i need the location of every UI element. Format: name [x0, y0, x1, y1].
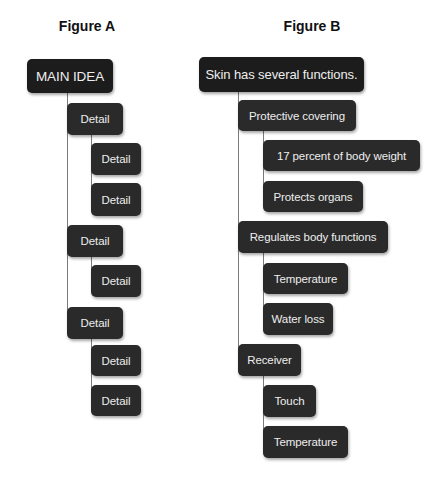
detail-node-protective-covering: Protective covering — [238, 100, 356, 131]
sub-detail-node: Detail — [91, 183, 141, 216]
main-idea-node: Skin has several functions. — [199, 57, 364, 92]
detail-node: Detail — [67, 103, 123, 135]
sub-detail-node-temperature: Temperature — [263, 426, 348, 458]
detail-node: Detail — [67, 307, 123, 339]
sub-detail-node-water-loss: Water loss — [263, 303, 333, 335]
figure-b-title: Figure B — [284, 18, 341, 34]
sub-detail-node-temperature: Temperature — [263, 263, 348, 294]
detail-node: Detail — [67, 225, 123, 257]
sub-detail-node: Detail — [91, 385, 141, 416]
detail-node-regulates: Regulates body functions — [238, 221, 388, 253]
sub-detail-node-touch: Touch — [263, 385, 316, 417]
figure-a-title: Figure A — [59, 18, 115, 34]
sub-detail-node: Detail — [91, 265, 141, 297]
main-idea-node: MAIN IDEA — [27, 59, 113, 93]
sub-detail-node-protects-organs: Protects organs — [263, 181, 363, 212]
detail-node-receiver: Receiver — [238, 344, 301, 376]
sub-detail-node: Detail — [91, 345, 141, 376]
sub-detail-node: Detail — [91, 143, 141, 175]
sub-detail-node-body-weight: 17 percent of body weight — [263, 140, 420, 171]
